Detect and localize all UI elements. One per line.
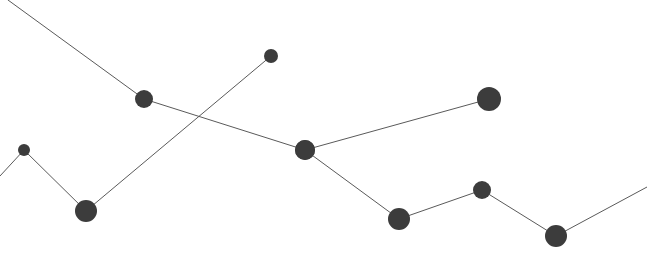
data-point-marker[interactable] (545, 225, 567, 247)
data-point-marker[interactable] (18, 144, 30, 156)
data-point-marker[interactable] (473, 181, 491, 199)
data-point-marker[interactable] (295, 140, 315, 160)
data-point-marker[interactable] (388, 208, 410, 230)
data-point-marker[interactable] (135, 90, 153, 108)
plot-svg (0, 0, 647, 269)
plot-canvas (0, 0, 647, 269)
data-point-marker[interactable] (477, 87, 501, 111)
data-point-marker[interactable] (264, 49, 278, 63)
data-point-marker[interactable] (75, 200, 97, 222)
